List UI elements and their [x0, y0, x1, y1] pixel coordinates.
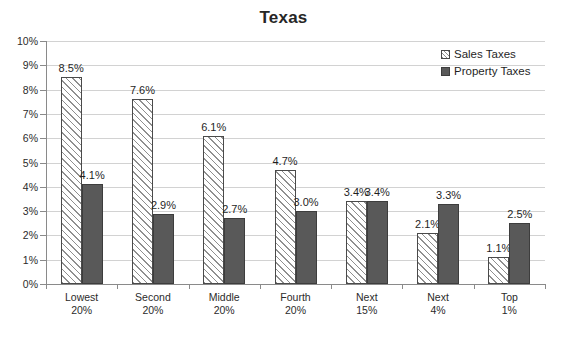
gridline	[46, 138, 545, 139]
x-axis-label-line2: 20%	[260, 304, 331, 317]
bar-property-taxes[interactable]	[438, 204, 459, 284]
legend-label-property-taxes: Property Taxes	[454, 65, 531, 77]
x-axis-tick	[402, 284, 403, 289]
bar-property-taxes[interactable]	[153, 214, 174, 284]
solid-square-icon	[441, 67, 450, 76]
y-axis-tick-label: 10%	[2, 36, 38, 47]
y-axis-tick	[40, 65, 46, 66]
x-axis-category-label: Fourth20%	[260, 291, 331, 317]
x-axis-label-line1: Second	[135, 291, 171, 303]
gridline	[46, 187, 545, 188]
bar-sales-taxes[interactable]	[417, 233, 438, 284]
x-axis-label-line1: Top	[501, 291, 518, 303]
x-axis-label-line2: 4%	[402, 304, 473, 317]
x-axis-label-line1: Next	[356, 291, 378, 303]
y-axis-tick	[40, 211, 46, 212]
x-axis-category-label: Next15%	[331, 291, 402, 317]
bar-value-label: 2.9%	[143, 200, 183, 211]
bar-property-taxes[interactable]	[224, 218, 245, 284]
y-axis-tick-label: 1%	[2, 254, 38, 265]
x-axis-label-line2: 1%	[474, 304, 545, 317]
gridline	[46, 90, 545, 91]
x-axis-tick	[331, 284, 332, 289]
bar-property-taxes[interactable]	[296, 211, 317, 284]
y-axis-labels: 10%9%8%7%6%5%4%3%2%1%0%	[0, 41, 38, 284]
hatched-square-icon	[441, 50, 450, 59]
x-axis-tick	[474, 284, 475, 289]
bar-value-label: 7.6%	[122, 85, 162, 96]
bar-value-label: 2.5%	[500, 209, 540, 220]
x-axis-tick	[117, 284, 118, 289]
x-axis-label-line1: Middle	[209, 291, 240, 303]
gridline	[46, 41, 545, 42]
x-axis-tick	[46, 284, 47, 289]
x-axis-category-label: Second20%	[117, 291, 188, 317]
y-axis-tick	[40, 235, 46, 236]
y-axis-tick-label: 8%	[2, 84, 38, 95]
y-axis-tick-label: 5%	[2, 157, 38, 168]
y-axis-tick	[40, 41, 46, 42]
x-axis-label-line2: 20%	[46, 304, 117, 317]
x-axis-category-label: Next4%	[402, 291, 473, 317]
y-axis-tick	[40, 90, 46, 91]
y-axis-tick-label: 2%	[2, 230, 38, 241]
x-axis-label-line1: Fourth	[280, 291, 310, 303]
x-axis-baseline	[46, 284, 545, 285]
y-axis-tick-label: 4%	[2, 182, 38, 193]
y-axis-tick	[40, 114, 46, 115]
x-axis-label-line2: 20%	[117, 304, 188, 317]
bar-sales-taxes[interactable]	[275, 170, 296, 284]
x-axis-label-line2: 15%	[331, 304, 402, 317]
bar-value-label: 2.7%	[215, 204, 255, 215]
y-axis-tick-label: 9%	[2, 60, 38, 71]
chart-title: Texas	[0, 8, 567, 28]
y-axis-tick	[40, 260, 46, 261]
x-axis-category-label: Top1%	[474, 291, 545, 317]
bar-value-label: 6.1%	[194, 122, 234, 133]
y-axis-tick-label: 7%	[2, 109, 38, 120]
bar-value-label: 8.5%	[51, 63, 91, 74]
x-axis-tick	[260, 284, 261, 289]
legend-item-sales-taxes[interactable]: Sales Taxes	[441, 48, 531, 60]
bar-property-taxes[interactable]	[509, 223, 530, 284]
x-axis-label-line2: 20%	[189, 304, 260, 317]
x-axis-category-label: Lowest20%	[46, 291, 117, 317]
bar-property-taxes[interactable]	[367, 201, 388, 284]
legend-item-property-taxes[interactable]: Property Taxes	[441, 65, 531, 77]
x-axis-tick	[545, 284, 546, 289]
bar-value-label: 3.4%	[357, 187, 397, 198]
bar-property-taxes[interactable]	[82, 184, 103, 284]
y-axis-tick	[40, 163, 46, 164]
y-axis-line	[46, 41, 47, 285]
bar-sales-taxes[interactable]	[132, 99, 153, 284]
bar-sales-taxes[interactable]	[488, 257, 509, 284]
y-axis-tick-label: 3%	[2, 206, 38, 217]
x-axis-category-label: Middle20%	[189, 291, 260, 317]
bar-value-label: 3.0%	[286, 197, 326, 208]
chart-legend: Sales Taxes Property Taxes	[441, 48, 531, 82]
x-axis-tick	[189, 284, 190, 289]
y-axis-tick	[40, 187, 46, 188]
chart-container: Texas 8.5%4.1%7.6%2.9%6.1%2.7%4.7%3.0%3.…	[0, 0, 567, 338]
y-axis-tick-label: 0%	[2, 279, 38, 290]
bar-sales-taxes[interactable]	[346, 201, 367, 284]
y-axis-tick-label: 6%	[2, 133, 38, 144]
bar-value-label: 4.7%	[265, 156, 305, 167]
bar-value-label: 3.3%	[429, 190, 469, 201]
x-axis-label-line1: Lowest	[65, 291, 98, 303]
x-axis-label-line1: Next	[427, 291, 449, 303]
y-axis-tick	[40, 138, 46, 139]
bar-value-label: 4.1%	[72, 170, 112, 181]
legend-label-sales-taxes: Sales Taxes	[454, 48, 516, 60]
gridline	[46, 114, 545, 115]
